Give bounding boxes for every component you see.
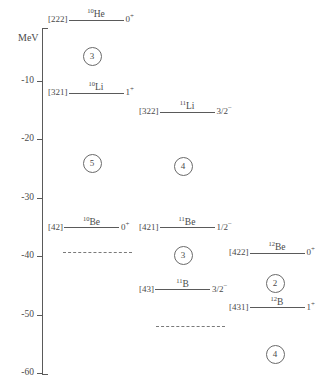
y-axis-top-cap — [42, 28, 48, 29]
level-nuclide-label: 11B — [175, 280, 190, 290]
nuclide-element-symbol: B — [277, 297, 283, 307]
level-spin-parity: 0+ — [307, 248, 315, 257]
level-nuclide-label: 11Li — [179, 102, 196, 112]
level-nuclide-label: 10Li — [88, 83, 105, 93]
nuclide-element-symbol: Li — [95, 82, 103, 92]
level-line: 12Be — [250, 248, 305, 257]
level-line: 11Li — [160, 107, 215, 116]
level-spin-parity: 0+ — [121, 223, 129, 232]
spin-value: 3/2 — [217, 106, 229, 116]
y-axis-tick — [37, 373, 43, 374]
level-spin-parity: 3/2− — [212, 285, 227, 294]
energy-level: [431]12B1+ — [229, 303, 315, 312]
energy-gap-marker: 3 — [174, 246, 193, 265]
y-axis-tick — [37, 198, 43, 199]
level-line: 10Li — [69, 88, 124, 97]
level-configuration-tag: [431] — [229, 303, 249, 312]
level-spin-parity: 3/2− — [217, 107, 232, 116]
threshold-dashed-line — [63, 252, 132, 253]
parity-value: + — [130, 85, 134, 93]
nuclide-element-symbol: B — [182, 279, 188, 289]
parity-value: − — [228, 220, 232, 228]
level-spin-parity: 1+ — [126, 88, 134, 97]
energy-gap-value: 2 — [273, 279, 278, 288]
energy-gap-value: 3 — [90, 52, 95, 61]
energy-level: [42]10Be0+ — [48, 223, 129, 232]
level-configuration-tag: [421] — [139, 223, 159, 232]
nuclide-element-symbol: He — [94, 9, 105, 19]
level-line: 10He — [69, 15, 124, 24]
y-axis-tick-label: -60 — [8, 368, 34, 378]
energy-level: [422]12Be0+ — [229, 248, 315, 257]
y-axis-line — [42, 28, 43, 374]
level-spin-parity: 1/2− — [217, 223, 232, 232]
level-nuclide-label: 12Be — [267, 243, 286, 253]
energy-level: [43]11B3/2− — [139, 285, 227, 294]
level-spin-parity: 0+ — [126, 15, 134, 24]
level-configuration-tag: [322] — [139, 107, 159, 116]
nuclide-element-symbol: Be — [185, 217, 196, 227]
spin-value: 3/2 — [212, 284, 224, 294]
energy-level: [321]10Li1+ — [48, 88, 134, 97]
y-axis-tick-label: -50 — [8, 310, 34, 320]
parity-value: + — [311, 300, 315, 308]
y-axis-tick — [37, 81, 43, 82]
energy-level-diagram: MeV -10-20-30-40-50-60-70 [222]10He0+[32… — [0, 0, 325, 384]
energy-gap-value: 3 — [181, 251, 186, 260]
y-axis-tick — [37, 139, 43, 140]
parity-value: − — [224, 282, 228, 290]
parity-value: + — [126, 220, 130, 228]
y-axis-tick-label: -30 — [8, 193, 34, 203]
nuclide-element-symbol: Li — [186, 101, 194, 111]
level-configuration-tag: [43] — [139, 285, 154, 294]
energy-gap-marker: 4 — [174, 157, 193, 176]
nuclide-element-symbol: Be — [89, 217, 100, 227]
axis-unit-label: MeV — [18, 33, 39, 43]
parity-value: − — [228, 104, 232, 112]
level-nuclide-label: 10Be — [82, 218, 101, 228]
level-configuration-tag: [321] — [48, 88, 68, 97]
y-axis-tick-label: -40 — [8, 251, 34, 261]
y-axis-tick — [37, 256, 43, 257]
y-axis-tick-label: -10 — [8, 76, 34, 86]
energy-gap-value: 4 — [273, 350, 278, 359]
level-line: 11Be — [160, 223, 215, 232]
energy-gap-value: 5 — [90, 159, 95, 168]
y-axis-tick — [37, 315, 43, 316]
level-line: 11B — [155, 285, 210, 294]
level-line: 12B — [250, 303, 305, 312]
energy-level: [222]10He0+ — [48, 15, 134, 24]
parity-value: + — [311, 245, 315, 253]
energy-gap-value: 4 — [181, 162, 186, 171]
level-nuclide-label: 10He — [86, 10, 106, 20]
level-configuration-tag: [42] — [48, 223, 63, 232]
level-configuration-tag: [222] — [48, 15, 68, 24]
level-configuration-tag: [422] — [229, 248, 249, 257]
level-spin-parity: 1+ — [307, 303, 315, 312]
energy-gap-marker: 5 — [83, 154, 102, 173]
level-nuclide-label: 11Be — [178, 218, 197, 228]
threshold-dashed-line — [156, 326, 225, 327]
parity-value: + — [130, 12, 134, 20]
y-axis-tick-label: -20 — [8, 134, 34, 144]
energy-gap-marker: 3 — [83, 47, 102, 66]
energy-level: [421]11Be1/2− — [139, 223, 232, 232]
level-nuclide-label: 12B — [270, 298, 285, 308]
level-line: 10Be — [64, 223, 119, 232]
nuclide-element-symbol: Be — [275, 242, 286, 252]
energy-level: [322]11Li3/2− — [139, 107, 232, 116]
energy-gap-marker: 4 — [266, 345, 285, 364]
energy-gap-marker: 2 — [266, 274, 285, 293]
spin-value: 1/2 — [217, 222, 229, 232]
